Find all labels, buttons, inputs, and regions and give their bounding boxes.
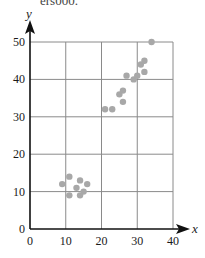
y-axis-label: y	[24, 6, 32, 21]
data-point	[102, 106, 108, 112]
data-point	[141, 58, 147, 64]
data-point	[66, 173, 72, 179]
y-tick-label: 30	[13, 110, 25, 124]
x-tick-label: 0	[27, 234, 33, 248]
y-tick-label: 20	[13, 147, 25, 161]
axes	[25, 20, 190, 234]
data-point	[123, 72, 129, 78]
data-point	[73, 185, 79, 191]
data-point	[134, 72, 140, 78]
x-tick-label: 20	[96, 234, 108, 248]
x-tick-label: 10	[60, 234, 72, 248]
y-tick-label: 0	[19, 222, 25, 236]
data-point	[141, 69, 147, 75]
scatter-chart: 01020304001020304050xy	[0, 0, 205, 258]
data-point	[59, 181, 65, 187]
data-point	[80, 188, 86, 194]
y-tick-label: 50	[13, 35, 25, 49]
data-point	[120, 99, 126, 105]
data-point	[77, 177, 83, 183]
data-points	[59, 39, 155, 199]
data-point	[66, 192, 72, 198]
y-tick-label: 10	[13, 185, 25, 199]
grid-lines	[30, 42, 173, 229]
x-tick-label: 30	[131, 234, 143, 248]
data-point	[120, 87, 126, 93]
data-point	[84, 181, 90, 187]
data-point	[148, 39, 154, 45]
x-tick-label: 40	[167, 234, 179, 248]
y-tick-label: 40	[13, 72, 25, 86]
data-point	[109, 106, 115, 112]
x-axis-label: x	[191, 221, 198, 236]
